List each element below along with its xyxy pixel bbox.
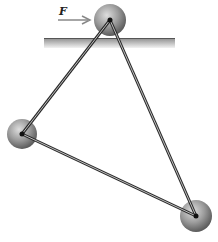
rod-top-left <box>22 20 110 134</box>
right-joint-pin <box>194 214 199 219</box>
force-label: F <box>59 5 67 18</box>
rod-top-right <box>110 20 196 216</box>
left-joint-pin <box>20 132 25 137</box>
rod-left-right <box>22 134 196 216</box>
top-joint-pin <box>108 18 113 23</box>
horizontal-surface <box>44 38 175 48</box>
triangle-frame-diagram <box>0 0 218 242</box>
